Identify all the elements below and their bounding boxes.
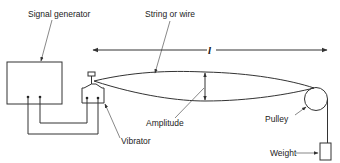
string-pointer <box>155 21 170 73</box>
vibrator <box>82 72 104 103</box>
string-label: String or wire <box>145 9 195 19</box>
vibrator-terminal-2 <box>97 97 100 100</box>
signal-generator-box <box>7 62 62 104</box>
vibrator-body <box>82 84 104 103</box>
string-upper-envelope <box>94 71 314 88</box>
wire-inner <box>40 97 87 123</box>
pulley-pointer <box>295 107 306 115</box>
length-label: l <box>208 44 212 56</box>
signal-generator-pointer <box>41 20 52 61</box>
length-dimension: l <box>93 44 327 56</box>
standing-wave-diagram: Signal generator Vibrator String or wire… <box>0 0 340 163</box>
vibrator-pointer <box>105 104 120 138</box>
pulley-label: Pulley <box>265 114 289 124</box>
vibrator-cap <box>88 72 95 76</box>
signal-generator <box>7 62 62 104</box>
amplitude-pointer <box>175 88 204 118</box>
string-wave <box>94 71 314 101</box>
vibrator-terminal-1 <box>86 97 89 100</box>
weight-label: Weight <box>270 148 297 158</box>
amplitude-label: Amplitude <box>146 118 184 128</box>
vibrator-label: Vibrator <box>121 136 151 146</box>
weight-block <box>320 143 331 160</box>
signal-generator-label: Signal generator <box>28 9 91 19</box>
string-lower-envelope <box>94 81 314 101</box>
pulley <box>305 88 328 111</box>
